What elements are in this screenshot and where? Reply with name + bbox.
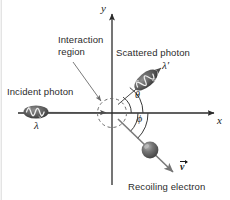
- compton-scattering-figure: Interaction region Incident photon Scatt…: [0, 0, 230, 200]
- velocity-vector-letter: v: [180, 161, 184, 172]
- incident-photon-label: Incident photon: [7, 86, 73, 97]
- figure-canvas: [0, 0, 230, 200]
- incident-photon-wave-packet: [24, 105, 49, 118]
- recoiling-electron-label: Recoiling electron: [128, 181, 205, 192]
- interaction-region-label-line2: region: [58, 46, 85, 57]
- interaction-region-label-line1: Interaction: [58, 34, 103, 45]
- y-axis-label: y: [101, 2, 106, 14]
- interaction-region-leader-line: [73, 62, 101, 101]
- vector-overbar-icon: [180, 161, 187, 162]
- velocity-vector-symbol: v: [180, 161, 187, 172]
- recoiling-electron-sphere: [142, 142, 159, 159]
- theta-angle-symbol: θ: [135, 89, 140, 100]
- scattered-wavelength-symbol: λ′: [162, 59, 169, 71]
- scattered-photon-label: Scattered photon: [116, 47, 190, 58]
- phi-angle-symbol: ϕ: [137, 113, 142, 124]
- x-axis-label: x: [217, 114, 222, 126]
- incident-wavelength-symbol: λ: [34, 119, 39, 131]
